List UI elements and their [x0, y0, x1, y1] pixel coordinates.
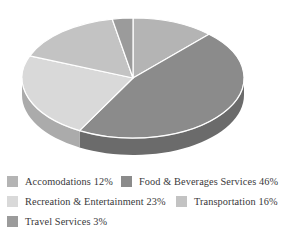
pie-chart-graphic [0, 0, 284, 168]
legend-item-recreation-entertainment[interactable]: Recreation & Entertainment 23% [7, 191, 166, 211]
legend-swatch-travel-services [7, 216, 18, 227]
pie-slices [22, 18, 244, 138]
legend-label-recreation-entertainment: Recreation & Entertainment 23% [25, 196, 166, 207]
pie-svg [0, 0, 284, 168]
legend-swatch-transportation [176, 196, 187, 207]
legend-item-accomodations[interactable]: Accomodations 12% [7, 171, 113, 191]
legend-item-food-beverages-services[interactable]: Food & Beverages Services 46% [121, 171, 278, 191]
legend-label-transportation: Transportation 16% [194, 196, 278, 207]
chart-legend: Accomodations 12% Food & Beverages Servi… [0, 169, 284, 245]
legend-item-transportation[interactable]: Transportation 16% [176, 191, 278, 211]
legend-label-food-beverages-services: Food & Beverages Services 46% [139, 176, 278, 187]
legend-swatch-accomodations [7, 176, 18, 187]
legend-swatch-food-beverages-services [121, 176, 132, 187]
legend-row: Accomodations 12% Food & Beverages Servi… [0, 171, 284, 191]
legend-row: Recreation & Entertainment 23% Transport… [0, 191, 284, 211]
legend-label-travel-services: Travel Services 3% [25, 216, 107, 227]
legend-row: Travel Services 3% [0, 211, 284, 231]
pie-chart-figure: Accomodations 12% Food & Beverages Servi… [0, 0, 284, 245]
legend-item-travel-services[interactable]: Travel Services 3% [7, 211, 107, 231]
legend-label-accomodations: Accomodations 12% [25, 176, 113, 187]
legend-swatch-recreation-entertainment [7, 196, 18, 207]
